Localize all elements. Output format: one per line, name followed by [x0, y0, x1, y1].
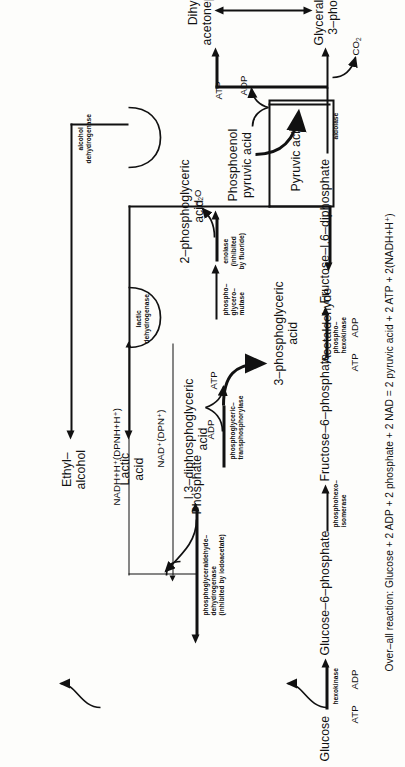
aldolase-split-bar	[215, 85, 327, 88]
overall-reaction: Over–all reaction: Glucose + 2 ADP + 2 p…	[384, 213, 395, 671]
label-2-phosphoglyceric-acid: 2–phosphoglyceric acid	[178, 159, 206, 263]
pep-line1: Phosphoenol	[226, 128, 240, 201]
arrowhead-nad-in	[169, 575, 175, 581]
label-water: H2O	[192, 189, 202, 207]
arrow-g6p-to-f6p	[326, 491, 328, 531]
lactic-line2: acid	[132, 452, 146, 485]
phosphohexoisomerase-line1: phosphohexo–	[331, 480, 339, 528]
arrowhead-dhap-up	[214, 7, 223, 15]
ethyl-line2: alcohol	[74, 449, 88, 489]
pga2-line1: 2–phosphoglyceric	[178, 159, 192, 263]
label-glyceraldehyde-3-phosphate: Glyceraldehyde– 3–phosphate	[312, 0, 340, 45]
label-3-phosphoglyceric-acid: 3–phosphoglyceric acid	[272, 281, 300, 385]
arrowhead-g6p-to-f6p	[321, 484, 329, 493]
lactic-line1: Lactic	[118, 452, 132, 485]
pyruvate-box-left-divider	[268, 205, 330, 207]
label-adp-phosphohexokinase: ADP	[349, 317, 359, 337]
label-atp-pyruvate-kinase: ATP	[213, 81, 223, 99]
pgald-dh-line2: dehydrogenase	[209, 534, 217, 615]
g3p-line2: 3–phosphate	[326, 0, 340, 45]
label-adp-hexokinase: ADP	[349, 669, 359, 689]
pga2-line2: acid	[192, 159, 206, 263]
arrow-glucose-to-g6p	[325, 665, 328, 709]
label-dihydroxyacetone-phosphate: Dihydroxy– acetonephosphate	[186, 0, 214, 45]
pgald-dh-line3: (inhibited by iodoacetate)	[217, 534, 225, 615]
alcohol-dh-line1: alcohol	[76, 114, 84, 163]
label-enzyme-phosphoglyceraldehyde-dehydrogenase: phosphoglyceraldehyde– dehydrogenase (in…	[201, 534, 224, 615]
label-atp-hexokinase: ATP	[349, 705, 359, 723]
arrowhead-to-g3p	[321, 47, 329, 56]
pyruvate-box-inner-divider	[268, 103, 330, 105]
arrowhead-pga3-to-pga2	[211, 264, 219, 273]
arrowhead-oxidation-right	[191, 502, 199, 511]
label-fructose-6-phosphate: Fructose–6–phosphate	[318, 353, 331, 481]
line-nad-oxidized	[172, 343, 173, 575]
enolase-line3: by fluoride)	[237, 233, 245, 270]
pep-line2: pyruvic acid	[240, 128, 254, 201]
pga3-line1: 3–phosphoglyceric	[272, 281, 286, 385]
enolase-line1: enolase	[221, 233, 229, 270]
arrow-pga2-to-pep	[215, 217, 218, 261]
arrowhead-pga2-to-pep	[211, 210, 219, 219]
arrowhead-pyruvate-to-acetaldehyde	[324, 262, 332, 271]
arrow-g3p-oxidation	[195, 507, 198, 635]
branch-to-g3p	[326, 54, 329, 88]
arrow-pga3-to-pga2	[215, 271, 217, 319]
transphosphorylase-line1: phosphoglyceric–	[228, 395, 236, 459]
label-lactic-acid: Lactic acid	[118, 452, 146, 485]
label-glucose: Glucose	[318, 715, 331, 761]
pga3-line2: acid	[286, 281, 300, 385]
arrow-dhap-g3p-interconversion	[222, 9, 304, 11]
mutase-line1: phospho–	[221, 283, 229, 315]
pgald-dh-line1: phosphoglyceraldehyde–	[201, 534, 209, 615]
transphosphorylase-line2: transphosphorylase	[236, 395, 244, 459]
label-glucose-6-phosphate: Glucose–6–phosphate	[318, 530, 331, 655]
arrow-to-lactic-acid	[128, 205, 130, 431]
arrow-to-ethyl-alcohol	[70, 123, 72, 431]
link-oxidation-to-cofactors	[128, 573, 196, 575]
label-phosphoenolpyruvic-acid: Phosphoenol pyruvic acid	[226, 128, 254, 201]
lactic-dh-line1: lactic	[134, 294, 142, 343]
g3p-line1: Glyceraldehyde–	[312, 0, 326, 45]
enolase-line2: (inhibited	[229, 233, 237, 270]
label-enzyme-phosphoglyceric-transphosphorylase: phosphoglyceric– transphosphorylase	[228, 395, 244, 459]
label-enzyme-lactic-dehydrogenase: lactic dehydrogenase	[134, 294, 150, 343]
dhap-line2: acetonephosphate	[200, 0, 214, 45]
alcohol-dh-line2: dehydrogenase	[84, 114, 92, 163]
label-enzyme-enolase: enolase (inhibited by fluoride)	[221, 233, 244, 270]
label-enzyme-alcohol-dehydrogenase: alcohol dehydrogenase	[76, 114, 92, 163]
label-enzyme-phosphoglyceromutase: phospho– glycero– mutase	[221, 283, 244, 315]
mutase-line3: mutase	[237, 283, 245, 315]
mutase-line2: glycero–	[229, 283, 237, 315]
label-enzyme-hexokinase: hexokinase	[331, 668, 339, 704]
arrowhead-ethyl-alcohol	[66, 430, 74, 439]
dpg-line1: I,3–diphosphoglyceric	[182, 378, 196, 499]
label-acetaldehyde: Acetaldehyde	[320, 287, 333, 363]
lactic-dh-line2: dehydrogenase	[142, 294, 150, 343]
label-adp-pyruvate-kinase: ADP	[238, 75, 248, 95]
label-atp-transphosphorylase: ATP	[208, 371, 218, 389]
label-nad-oxidized: NAD⁺(DPN⁺)	[155, 409, 165, 467]
label-atp-phosphohexokinase: ATP	[349, 353, 359, 371]
label-carbon-dioxide: CO2	[350, 37, 360, 55]
ethyl-line1: Ethyl–	[60, 449, 74, 489]
arrowhead-g3p-down	[303, 7, 312, 15]
label-pyruvic-acid: Pyruvic acid	[289, 124, 302, 192]
arrowhead-lactic-acid	[124, 430, 132, 439]
arrow-dpg-to-pga3-stem	[222, 405, 225, 467]
phosphohexokinase-line2: hexokinase	[339, 317, 347, 353]
dhap-line1: Dihydroxy–	[186, 0, 200, 45]
arrowhead-oxidation-left	[191, 634, 199, 643]
pathway-diagram: Glucose ATP ADP hexokinase Glucose–6–pho…	[0, 0, 405, 767]
label-adp-transphosphorylase: ADP	[205, 419, 215, 439]
label-enzyme-phosphohexoisomerase: phosphohexo– isomerase	[331, 480, 347, 528]
link-pyruvate-to-lactate-stem	[128, 205, 270, 207]
arrowhead-glucose-to-g6p	[321, 658, 329, 667]
phosphohexoisomerase-line2: isomerase	[339, 480, 347, 528]
arrowhead-to-dhap	[211, 47, 219, 56]
label-ethyl-alcohol: Ethyl– alcohol	[60, 449, 88, 489]
arrow-pyruvate-to-acetaldehyde	[328, 205, 331, 263]
